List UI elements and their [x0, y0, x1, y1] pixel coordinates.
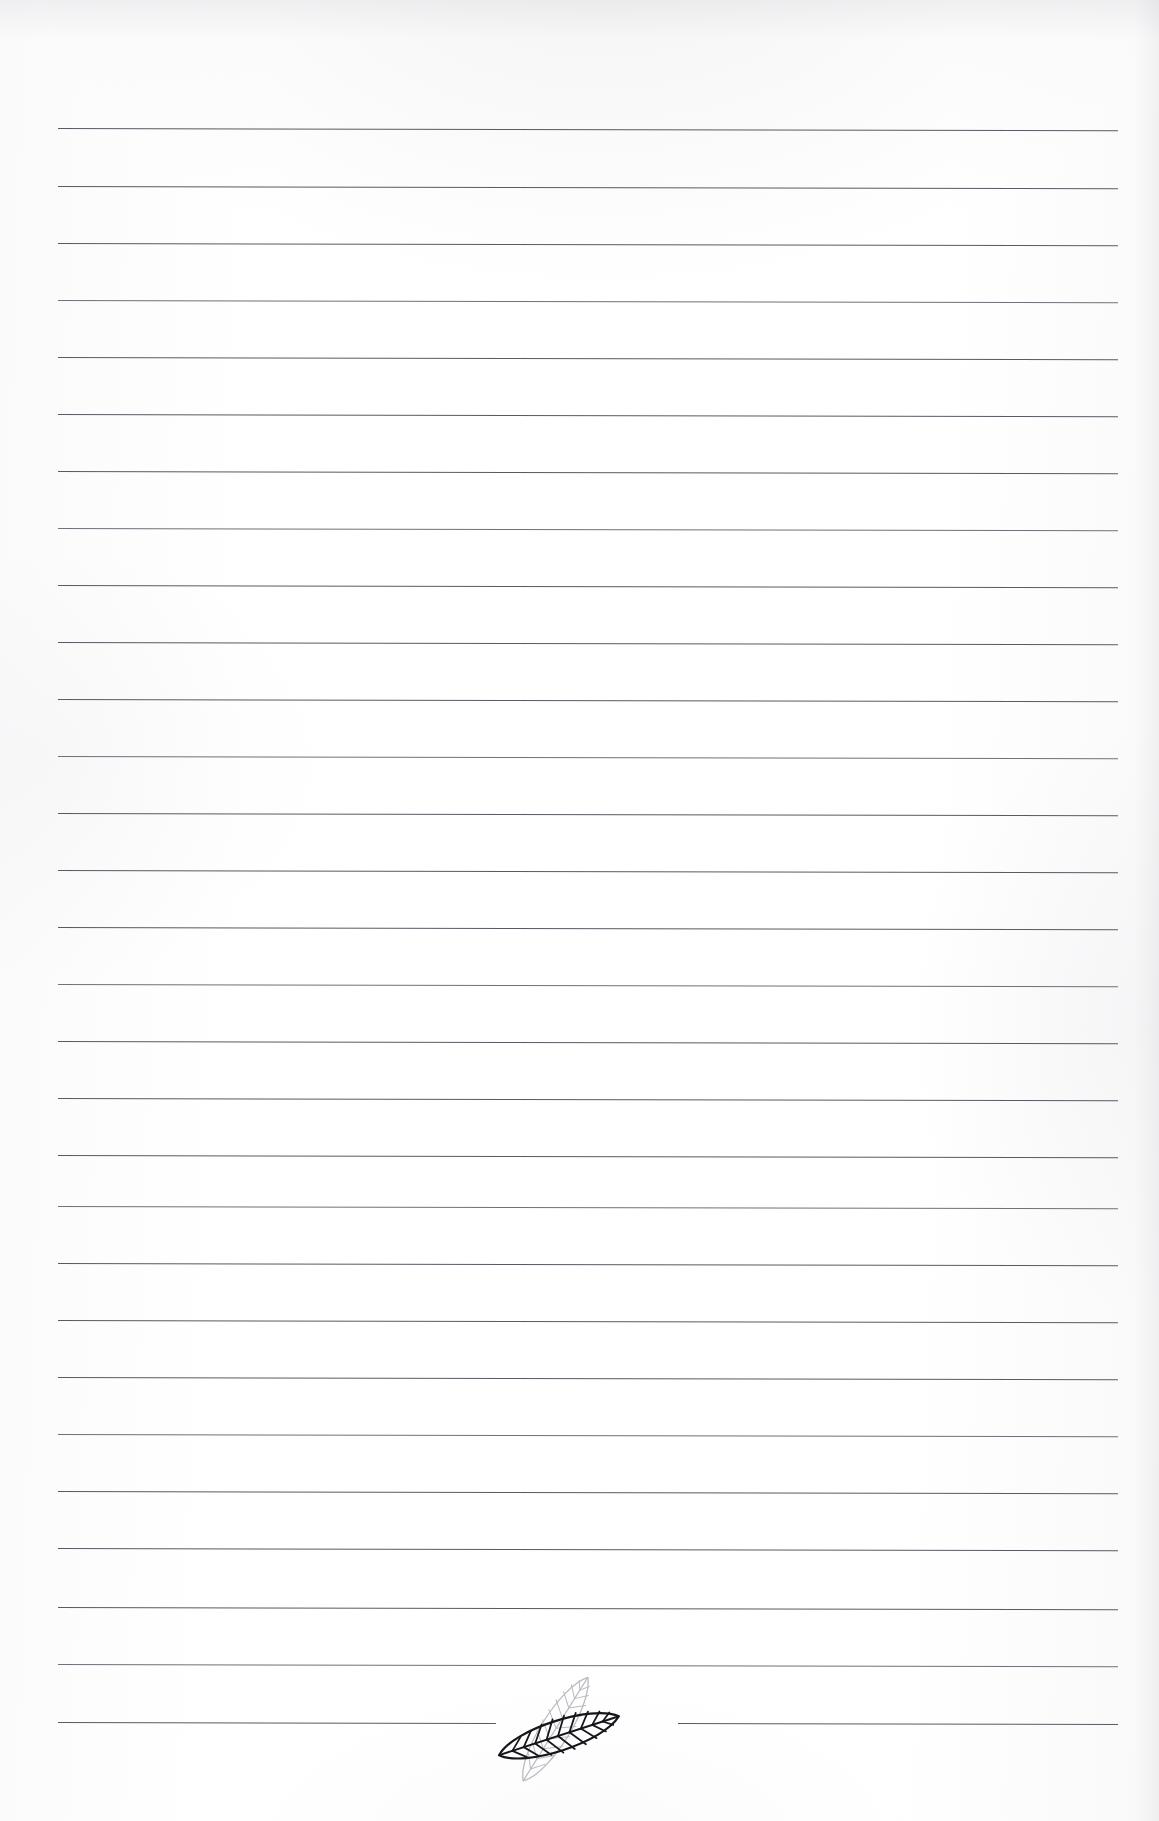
ruled-line	[58, 642, 1118, 645]
ruled-line	[58, 414, 1118, 417]
ruled-line	[58, 813, 1118, 816]
ruled-line	[58, 699, 1118, 702]
ruled-line	[58, 1263, 1118, 1266]
ruled-line	[58, 927, 1118, 930]
ruled-line	[58, 1548, 1118, 1551]
ruled-line	[58, 300, 1118, 303]
ruled-line	[58, 1320, 1118, 1323]
dark-leaf-icon	[494, 1700, 625, 1772]
ruled-line	[58, 756, 1118, 759]
ruled-line	[58, 1377, 1118, 1380]
ruled-line	[58, 1098, 1118, 1101]
ruled-line	[58, 1041, 1118, 1044]
ruled-line	[58, 1607, 1118, 1610]
light-leaf-icon	[510, 1669, 602, 1789]
ruled-line-left-segment	[58, 1722, 496, 1724]
ruled-line	[58, 128, 1118, 131]
ruled-line	[58, 1664, 1118, 1667]
ruled-line	[58, 1155, 1118, 1158]
ruled-line	[58, 984, 1118, 987]
twin-leaf-ornament	[495, 1672, 665, 1792]
ruled-line	[58, 471, 1118, 474]
ruled-line-layer	[0, 0, 1159, 1821]
stationery-page	[0, 0, 1159, 1821]
ruled-line	[58, 357, 1118, 360]
ruled-line	[58, 1434, 1118, 1437]
ruled-line	[58, 243, 1118, 246]
ruled-line	[58, 1491, 1118, 1494]
ruled-line-right-segment	[678, 1723, 1118, 1725]
ruled-line	[58, 585, 1118, 588]
ruled-line	[58, 186, 1118, 189]
ruled-line	[58, 528, 1118, 531]
ruled-line	[58, 1206, 1118, 1209]
ruled-line	[58, 870, 1118, 873]
